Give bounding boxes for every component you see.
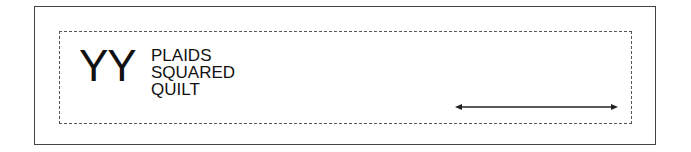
outer-border: YY PLAIDS SQUARED QUILT xyxy=(34,6,656,145)
label-text-block: PLAIDS SQUARED QUILT xyxy=(151,47,235,98)
dashed-label-area: YY PLAIDS SQUARED QUILT xyxy=(59,31,632,124)
double-arrow-icon xyxy=(455,102,618,112)
label-line-1: PLAIDS xyxy=(151,47,235,64)
logo-text: YY xyxy=(79,44,136,88)
label-line-2: SQUARED xyxy=(151,64,235,81)
label-line-3: QUILT xyxy=(151,81,235,98)
